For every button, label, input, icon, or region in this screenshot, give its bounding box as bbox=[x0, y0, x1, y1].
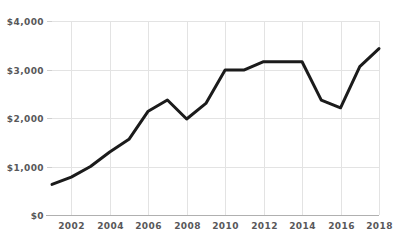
y-axis-tick-labels: $0$1,000$2,000$3,000$4,000 bbox=[7, 17, 44, 221]
series-line-value bbox=[52, 49, 379, 185]
x-tick-label-2016: 2016 bbox=[328, 221, 355, 231]
x-tick-label-2014: 2014 bbox=[289, 221, 316, 231]
y-tick-label-4000: $4,000 bbox=[7, 17, 44, 27]
line-chart: $0$1,000$2,000$3,000$4,000 2002200420062… bbox=[0, 0, 397, 243]
data-series-line bbox=[52, 49, 379, 185]
x-tick-label-2010: 2010 bbox=[212, 221, 239, 231]
gridlines bbox=[47, 21, 380, 216]
y-tick-label-1000: $1,000 bbox=[7, 163, 44, 173]
y-tick-label-0: $0 bbox=[31, 211, 44, 221]
chart-canvas: $0$1,000$2,000$3,000$4,000 2002200420062… bbox=[0, 0, 397, 243]
x-tick-label-2012: 2012 bbox=[251, 221, 278, 231]
y-tick-label-3000: $3,000 bbox=[7, 66, 44, 76]
x-tick-label-2002: 2002 bbox=[58, 221, 85, 231]
x-tick-label-2008: 2008 bbox=[174, 221, 201, 231]
x-tick-label-2004: 2004 bbox=[97, 221, 124, 231]
x-axis-tick-labels: 200220042006200820102012201420162018 bbox=[58, 221, 393, 231]
x-tick-label-2006: 2006 bbox=[135, 221, 162, 231]
x-tick-label-2018: 2018 bbox=[366, 221, 393, 231]
y-tick-label-2000: $2,000 bbox=[7, 114, 44, 124]
